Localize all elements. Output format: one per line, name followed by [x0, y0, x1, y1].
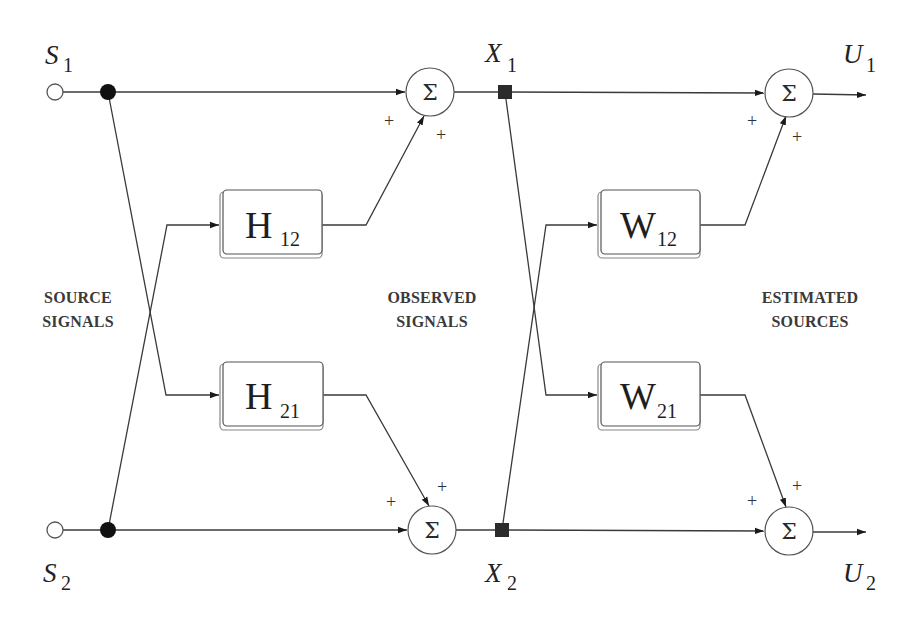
plus-signs: + + + + + + + +: [384, 111, 802, 512]
sigma-icon: Σ: [781, 519, 797, 544]
block-h12: H 12: [220, 190, 322, 258]
variable-symbol: X: [484, 558, 503, 588]
label-u2: U 2: [843, 558, 876, 594]
wire-w21-to-sum4: [700, 395, 786, 507]
label-x2: X 2: [484, 558, 517, 594]
block-symbol: H: [245, 204, 272, 246]
wire-h21-to-sum2: [323, 395, 429, 506]
bss-diagram: Σ Σ Σ Σ + + + + + + + + H 12 H 21 W 1: [0, 0, 912, 621]
caption-estimated-sources: ESTIMATED SOURCES: [762, 289, 859, 330]
block-frame: [223, 362, 323, 426]
wire-w12-to-sum3: [700, 116, 786, 225]
variable-subscript: 2: [866, 572, 876, 594]
sigma-icon: Σ: [424, 518, 440, 543]
block-symbol: W: [620, 375, 656, 417]
variable-subscript: 1: [866, 54, 876, 76]
block-symbol: W: [620, 204, 656, 246]
label-x1: X 1: [484, 38, 517, 76]
variable-symbol: X: [484, 38, 503, 68]
summer-sum3: Σ: [765, 69, 813, 117]
wire-sum3-output: [813, 94, 866, 95]
source-s1-terminal: [47, 84, 63, 100]
wire-s2-to-h12: [108, 225, 219, 530]
s2-branch-node: [100, 522, 116, 538]
plus-sign: +: [747, 491, 757, 511]
block-h21: H 21: [220, 362, 323, 430]
caption-line: ESTIMATED: [762, 289, 859, 306]
sigma-icon: Σ: [781, 81, 797, 106]
variable-subscript: 2: [507, 572, 517, 594]
block-subscript: 12: [657, 228, 677, 250]
wire-h12-to-sum1: [322, 116, 424, 225]
x1-branch-node: [498, 85, 512, 99]
summer-sum4: Σ: [765, 507, 813, 555]
variable-symbol: S: [45, 40, 59, 70]
plus-sign: +: [384, 111, 394, 131]
nodes: [47, 84, 512, 538]
variable-subscript: 1: [507, 54, 517, 76]
summer-sum1: Σ: [406, 68, 454, 116]
wire-x1-to-sum3: [505, 92, 764, 93]
summer-sum2: Σ: [408, 506, 456, 554]
label-s2: S 2: [43, 558, 71, 594]
caption-line: SIGNALS: [396, 313, 468, 330]
label-u1: U 1: [843, 39, 876, 76]
caption-line: OBSERVED: [387, 289, 476, 306]
wire-x1-to-w21: [505, 92, 597, 395]
plus-sign: +: [792, 476, 802, 496]
block-subscript: 21: [280, 400, 300, 422]
variable-symbol: U: [843, 39, 864, 69]
caption-observed-signals: OBSERVED SIGNALS: [387, 289, 476, 330]
block-symbol: H: [245, 375, 272, 417]
wire-x2-to-sum4: [502, 530, 764, 531]
sigma-icon: Σ: [422, 80, 438, 105]
plus-sign: +: [437, 477, 447, 497]
variable-subscript: 2: [61, 572, 71, 594]
label-s1: S 1: [45, 40, 73, 76]
plus-sign: +: [386, 492, 396, 512]
variable-symbol: S: [43, 558, 57, 588]
block-w21: W 21: [598, 362, 700, 430]
source-s2-terminal: [47, 522, 63, 538]
variable-symbol: U: [843, 558, 864, 588]
block-subscript: 12: [280, 228, 300, 250]
caption-line: SOURCE: [44, 289, 112, 306]
s1-branch-node: [100, 84, 116, 100]
caption-line: SOURCES: [772, 313, 849, 330]
block-subscript: 21: [657, 400, 677, 422]
wires: [63, 92, 866, 532]
caption-line: SIGNALS: [42, 313, 114, 330]
wire-x2-to-w12: [502, 225, 597, 530]
block-frame: [223, 190, 322, 254]
caption-source-signals: SOURCE SIGNALS: [42, 289, 114, 330]
plus-sign: +: [747, 111, 757, 131]
block-w12: W 12: [598, 190, 700, 258]
plus-sign: +: [436, 125, 446, 145]
variable-subscript: 1: [63, 54, 73, 76]
plus-sign: +: [792, 127, 802, 147]
x2-branch-node: [495, 523, 509, 537]
